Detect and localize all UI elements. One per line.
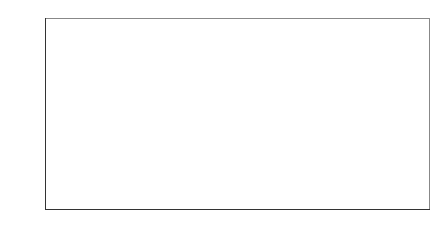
y-axis-label — [0, 0, 26, 247]
y-axis — [45, 18, 46, 210]
plot-area — [45, 18, 430, 210]
bar-chart — [0, 0, 439, 247]
x-axis — [45, 209, 430, 210]
